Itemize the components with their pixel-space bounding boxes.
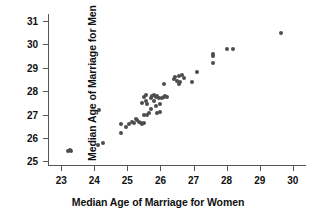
x-tick xyxy=(260,166,261,171)
scatter-chart: 2324252627282930 25262728293031 Median A… xyxy=(0,0,316,210)
data-point xyxy=(231,47,235,51)
x-tick xyxy=(194,166,195,171)
x-tick-label: 26 xyxy=(155,175,166,186)
y-tick xyxy=(43,161,48,162)
y-tick xyxy=(43,68,48,69)
x-tick-label: 30 xyxy=(287,175,298,186)
data-point xyxy=(147,111,151,115)
x-tick-label: 23 xyxy=(56,175,67,186)
data-point xyxy=(101,141,105,145)
data-point xyxy=(178,80,182,84)
data-point xyxy=(158,110,162,114)
y-tick-label: 30 xyxy=(27,39,38,50)
data-point xyxy=(119,122,123,126)
data-point xyxy=(182,76,186,80)
y-tick xyxy=(43,21,48,22)
y-tick xyxy=(43,115,48,116)
y-tick-label: 29 xyxy=(27,62,38,73)
data-point xyxy=(144,93,148,97)
x-tick xyxy=(127,166,128,171)
x-tick xyxy=(293,166,294,171)
x-tick-label: 28 xyxy=(221,175,232,186)
data-point xyxy=(211,52,215,56)
data-point xyxy=(69,149,73,153)
data-point xyxy=(119,131,123,135)
x-tick-label: 27 xyxy=(188,175,199,186)
x-tick xyxy=(160,166,161,171)
data-point xyxy=(225,47,229,51)
data-point xyxy=(124,125,128,129)
x-axis-title: Median Age of Marriage for Women xyxy=(0,196,316,208)
y-tick xyxy=(43,138,48,139)
data-point xyxy=(149,107,153,111)
y-tick-label: 26 xyxy=(27,132,38,143)
data-point xyxy=(142,121,146,125)
y-tick xyxy=(43,44,48,45)
data-point xyxy=(279,31,283,35)
x-tick-label: 25 xyxy=(122,175,133,186)
y-axis-title: Median Age of Marriage for Men xyxy=(85,0,99,168)
y-tick xyxy=(43,91,48,92)
y-tick-label: 28 xyxy=(27,86,38,97)
y-tick-label: 27 xyxy=(27,109,38,120)
data-point xyxy=(165,95,169,99)
y-axis-line xyxy=(48,14,49,166)
data-point xyxy=(152,99,156,103)
data-point xyxy=(211,61,215,65)
x-tick-label: 29 xyxy=(254,175,265,186)
x-tick xyxy=(61,166,62,171)
y-tick-label: 31 xyxy=(27,16,38,27)
x-tick xyxy=(227,166,228,171)
data-point xyxy=(190,80,194,84)
data-point xyxy=(195,70,199,74)
data-point xyxy=(158,102,162,106)
data-point xyxy=(145,102,149,106)
data-point xyxy=(154,104,158,108)
y-tick-label: 25 xyxy=(27,156,38,167)
data-point xyxy=(162,82,166,86)
x-tick-label: 24 xyxy=(89,175,100,186)
